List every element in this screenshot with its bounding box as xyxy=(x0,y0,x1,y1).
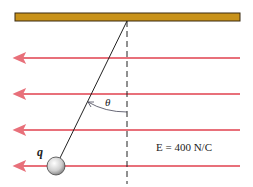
ceiling xyxy=(15,13,240,21)
charge-label: q xyxy=(37,145,43,160)
string xyxy=(60,21,127,158)
charged-ball xyxy=(47,157,65,175)
field-label: E = 400 N/C xyxy=(156,141,212,153)
angle-label: θ xyxy=(105,96,110,108)
